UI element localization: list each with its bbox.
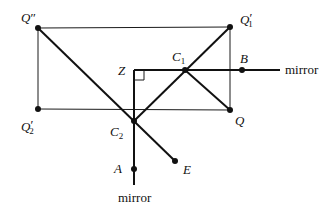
line-qdp-q1p (38, 27, 230, 28)
ray-q1p-c2 (134, 27, 230, 121)
point-q1-prime (227, 24, 233, 30)
point-c2 (131, 118, 137, 124)
label-e: E (182, 162, 191, 177)
label-q1-prime: Q′1 (240, 10, 253, 29)
label-b: B (240, 51, 248, 66)
mirror-reflection-diagram: Q″ Q′1 Q′2 Q Z C1 C2 B A E mirror mirror (0, 0, 332, 213)
label-a: A (113, 161, 122, 176)
ray-qdp-e (38, 28, 175, 161)
diagram-svg: Q″ Q′1 Q′2 Q Z C1 C2 B A E mirror mirror (0, 0, 332, 213)
label-c1: C1 (172, 49, 185, 66)
ray-c1-q (185, 70, 230, 110)
label-q: Q (235, 113, 245, 128)
point-c1 (182, 67, 188, 73)
label-z: Z (118, 63, 126, 78)
label-q2-prime: Q′2 (21, 117, 34, 136)
label-q-double-prime: Q″ (21, 10, 36, 25)
label-horizontal-mirror: mirror (285, 62, 319, 77)
right-angle-marker (134, 70, 144, 80)
point-b (239, 67, 245, 73)
point-q (227, 107, 233, 113)
point-q2-prime (35, 106, 41, 112)
point-e (172, 158, 178, 164)
point-a (131, 166, 137, 172)
point-q-double-prime (35, 25, 41, 31)
label-c2: C2 (110, 124, 123, 141)
label-vertical-mirror: mirror (118, 190, 152, 205)
